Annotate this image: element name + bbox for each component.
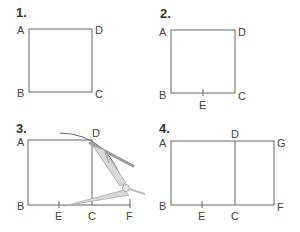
- label-a: A: [17, 136, 25, 148]
- step-number: 1.: [16, 5, 27, 20]
- label-c: C: [231, 210, 239, 222]
- panel-2: 2. A D B C E: [159, 6, 246, 111]
- square-abcd: [28, 140, 92, 205]
- square-abcd: [29, 29, 92, 92]
- label-d: D: [231, 128, 239, 140]
- label-f: F: [126, 210, 133, 222]
- label-b: B: [17, 200, 24, 212]
- label-e: E: [199, 99, 206, 111]
- square-abcd: [171, 30, 235, 93]
- panel-3: 3. A D B E C F: [16, 121, 145, 222]
- label-d: D: [95, 24, 103, 36]
- label-b: B: [159, 89, 166, 101]
- label-a: A: [159, 26, 167, 38]
- label-b: B: [159, 200, 166, 212]
- label-c: C: [238, 90, 246, 102]
- label-g: G: [277, 137, 286, 149]
- label-c: C: [95, 88, 103, 100]
- golden-rectangle-construction-diagram: 1. A D B C 2. A D B C E 3. A: [0, 0, 300, 232]
- step-number: 3.: [16, 121, 27, 136]
- golden-rectangle-abfg: [171, 141, 274, 205]
- label-d: D: [238, 26, 246, 38]
- step-number: 2.: [160, 6, 171, 21]
- label-f: F: [277, 201, 284, 213]
- label-c: C: [88, 210, 96, 222]
- label-a: A: [17, 24, 25, 36]
- label-e: E: [198, 210, 205, 222]
- label-a: A: [159, 137, 167, 149]
- panel-4: 4. A D G B E C F: [159, 121, 286, 222]
- label-d: D: [92, 127, 100, 139]
- label-e: E: [55, 210, 62, 222]
- step-number: 4.: [159, 121, 170, 136]
- compass-icon: [64, 143, 145, 206]
- label-b: B: [17, 87, 24, 99]
- panel-1: 1. A D B C: [16, 5, 103, 100]
